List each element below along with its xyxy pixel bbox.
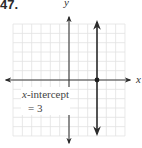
y-axis-label: y <box>64 0 69 8</box>
x-axis-label: x <box>136 73 141 85</box>
x-intercept-annotation: x-intercept = 3 <box>21 87 70 115</box>
coordinate-graph <box>0 0 142 148</box>
annotation-value: = 3 <box>22 101 69 115</box>
annotation-label: -intercept <box>27 88 69 100</box>
x-intercept-point <box>95 78 100 83</box>
